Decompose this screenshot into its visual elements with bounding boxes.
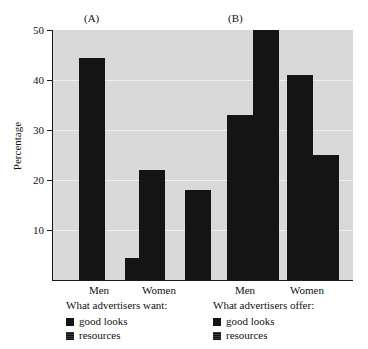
plot-area: 1020304050 (52, 30, 353, 281)
bar-panel-a-women-resources (185, 190, 211, 280)
y-tick-label-30: 30 (33, 125, 44, 136)
legend-panel-a: What advertisers want: good looks resour… (66, 299, 167, 342)
y-tick-label-50: 50 (33, 25, 44, 36)
legend-b-item-resources: resources (213, 329, 314, 342)
legend-a-item-good-looks: good looks (66, 315, 167, 328)
legend-a-title: What advertisers want: (66, 299, 167, 311)
y-tick-label-40: 40 (33, 75, 44, 86)
y-tick-label-10: 10 (33, 225, 44, 236)
bar-panel-b-women-good-looks (287, 75, 313, 280)
y-tick-50 (47, 30, 53, 31)
y-tick-40 (47, 80, 53, 81)
legend-a-label-resources: resources (79, 329, 121, 342)
y-tick-30 (47, 130, 53, 131)
legend-swatch-resources-icon (66, 332, 74, 340)
y-tick-10 (47, 230, 53, 231)
x-label-a-women: Women (142, 284, 176, 296)
x-label-b-men: Men (235, 284, 255, 296)
x-label-b-women: Women (290, 284, 324, 296)
bar-panel-a-men-good-looks (79, 58, 105, 281)
legend-swatch-good-looks-icon (66, 318, 74, 326)
legend-b-item-good-looks: good looks (213, 315, 314, 328)
bar-panel-b-women-resources (313, 155, 339, 280)
legend-swatch-good-looks-icon (213, 318, 221, 326)
legend-a-label-good-looks: good looks (79, 315, 128, 328)
legend-panel-b: What advertisers offer: good looks resou… (213, 299, 314, 342)
legend-b-title: What advertisers offer: (213, 299, 314, 311)
bar-panel-b-men-good-looks (227, 115, 253, 280)
y-tick-label-20: 20 (33, 175, 44, 186)
legend-a-item-resources: resources (66, 329, 167, 342)
bar-chart-figure: (A) (B) Percentage 1020304050 Men Women … (0, 0, 368, 349)
y-axis-title: Percentage (11, 86, 23, 206)
x-label-a-men: Men (89, 284, 109, 296)
y-tick-20 (47, 180, 53, 181)
bar-panel-a-women-good-looks (139, 170, 165, 280)
panel-a-caption: (A) (84, 12, 99, 24)
legend-b-label-resources: resources (226, 329, 268, 342)
bar-panel-b-men-resources (253, 30, 279, 280)
panel-b-caption: (B) (228, 12, 243, 24)
legend-swatch-resources-icon (213, 332, 221, 340)
legend-b-label-good-looks: good looks (226, 315, 275, 328)
